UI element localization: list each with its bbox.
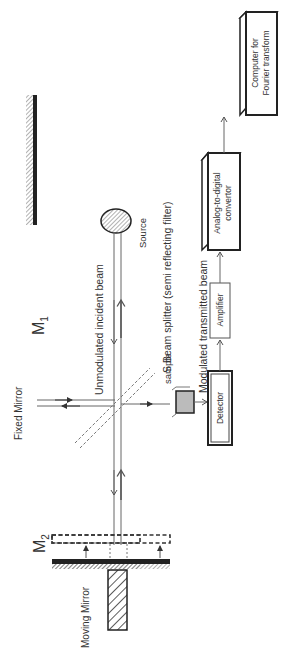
label-modulated-beam: Modulated transmitted beam bbox=[197, 260, 209, 393]
label-source: Source bbox=[137, 218, 148, 248]
label-m2: M2 bbox=[31, 534, 51, 553]
label-adc-line2: convertor bbox=[223, 185, 233, 221]
diagram-canvas: M1 Fixed Mirror Unmodulated incident bea… bbox=[0, 0, 291, 654]
fixed-mirror bbox=[26, 95, 37, 225]
label-beam-splitter: S Beam splitter (semi reflecting filter) bbox=[161, 201, 173, 373]
beam-splitter bbox=[75, 368, 155, 448]
label-fixed-mirror: Fixed Mirror bbox=[13, 386, 24, 440]
label-moving-mirror: Moving Mirror bbox=[80, 586, 91, 648]
source-icon bbox=[101, 209, 131, 233]
label-computer-line2: Fourier transform bbox=[261, 30, 271, 95]
label-detector: Detector bbox=[215, 392, 225, 424]
sample bbox=[172, 387, 194, 417]
moving-mirror bbox=[52, 535, 170, 630]
label-m1: M1 bbox=[30, 316, 50, 335]
label-adc-line1: Analog-to-digital bbox=[212, 172, 222, 234]
ftir-diagram: M1 Fixed Mirror Unmodulated incident bea… bbox=[0, 0, 291, 654]
label-sample: sample bbox=[162, 353, 173, 384]
label-unmodulated-beam: Unmodulated incident beam bbox=[93, 264, 105, 395]
label-amplifier: Amplifier bbox=[215, 293, 225, 326]
label-computer-line1: Computer for bbox=[250, 38, 260, 88]
